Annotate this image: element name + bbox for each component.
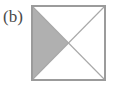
figure-panel: (b) — [0, 0, 115, 88]
square-diagonals-diagram — [0, 0, 115, 88]
